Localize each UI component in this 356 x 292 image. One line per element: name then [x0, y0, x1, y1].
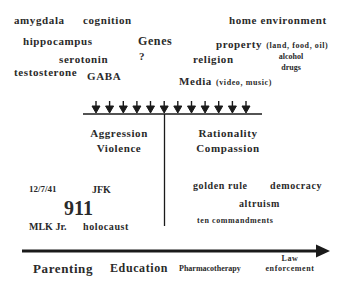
heading-compassion: Compassion: [188, 143, 268, 154]
concept-golden-rule: golden rule: [193, 181, 248, 191]
event-date-12-7-41: 12/7/41: [29, 185, 57, 194]
down-arrow-icon: [119, 101, 127, 113]
label-drugs: drugs: [272, 64, 310, 72]
intervention-law-enforcement: Law enforcement: [260, 255, 320, 273]
label-alcohol: alcohol: [272, 53, 310, 61]
label-law: Law: [260, 255, 320, 263]
event-holocaust: holocaust: [83, 222, 129, 232]
concept-ten-commandments: ten commandments: [197, 217, 273, 225]
label-property-group: property (land, food, oil): [216, 35, 328, 51]
down-arrow-icon: [242, 101, 250, 113]
intervention-parenting: Parenting: [33, 262, 93, 275]
label-media-detail: (video, music): [216, 78, 272, 87]
down-arrow-icon: [174, 101, 182, 113]
label-genes: Genes: [138, 35, 172, 47]
genes-question-mark: ?: [139, 51, 145, 62]
down-arrow-icon: [106, 101, 114, 113]
down-arrow-icon: [147, 101, 155, 113]
heading-rationality-compassion: Rationality Compassion: [188, 128, 268, 154]
down-arrow-icon: [160, 101, 168, 113]
down-arrow-icon: [92, 101, 100, 113]
label-property: property: [216, 38, 262, 50]
label-alcohol-drugs: alcohol drugs: [272, 53, 310, 72]
event-mlk-jr: MLK Jr.: [29, 222, 66, 232]
down-arrows: [92, 101, 250, 113]
heading-violence: Violence: [79, 143, 159, 154]
label-property-detail: (land, food, oil): [266, 41, 328, 50]
concept-altruism: altruism: [239, 199, 280, 209]
down-arrow-icon: [188, 101, 196, 113]
heading-aggression-violence: Aggression Violence: [79, 128, 159, 154]
label-cognition: cognition: [83, 15, 132, 26]
label-home-environment: home environment: [229, 15, 327, 26]
heading-rationality: Rationality: [188, 128, 268, 139]
concept-democracy: democracy: [270, 181, 322, 191]
label-media: Media: [179, 75, 212, 87]
intervention-education: Education: [110, 262, 168, 274]
label-enforcement: enforcement: [260, 265, 320, 273]
label-testosterone: testosterone: [14, 67, 77, 78]
down-arrow-icon: [215, 101, 223, 113]
down-arrow-icon: [228, 101, 236, 113]
label-media-group: Media (video, music): [179, 72, 272, 88]
down-arrow-icon: [201, 101, 209, 113]
label-gaba: GABA: [87, 71, 121, 82]
label-hippocampus: hippocampus: [23, 36, 93, 47]
heading-aggression: Aggression: [79, 128, 159, 139]
label-serotonin: serotonin: [59, 54, 108, 65]
event-911: 911: [64, 198, 93, 218]
intervention-pharmacotherapy: Pharmacotherapy: [179, 265, 241, 273]
label-religion: religion: [193, 54, 234, 65]
event-jfk: JFK: [92, 185, 111, 195]
label-amygdala: amygdala: [14, 15, 65, 26]
down-arrow-icon: [133, 101, 141, 113]
